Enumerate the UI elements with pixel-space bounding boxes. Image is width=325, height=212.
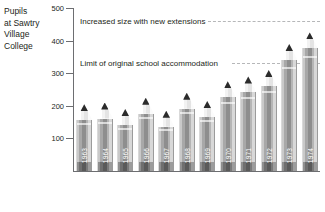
pencil-lead-point — [244, 76, 252, 83]
x-tick-label: 1970 — [224, 148, 231, 163]
pencil-highlight-band — [282, 67, 296, 69]
pencil-tip-icon — [302, 32, 318, 48]
y-axis-title-line-3: Village — [4, 29, 50, 41]
pencil-highlight-band — [221, 102, 235, 104]
pencil-barrel: 1965 — [117, 125, 133, 171]
pencil-highlight-band — [180, 112, 194, 114]
pencil-lead-point — [101, 103, 109, 110]
pencil-tip-icon — [281, 44, 297, 60]
pencil-highlight-band — [303, 56, 317, 58]
pencil-highlight-band — [200, 120, 214, 122]
pencil-lead-point — [121, 109, 129, 116]
pencil-tip-icon — [76, 104, 92, 120]
pencil-base — [180, 162, 194, 171]
pencil-barrel: 1968 — [179, 109, 195, 171]
pencil-barrel: 1966 — [138, 114, 154, 171]
x-tick-label: 1964 — [101, 148, 108, 163]
bar-pencil: 1965 — [117, 109, 133, 171]
bar-pencil: 1969 — [199, 101, 215, 171]
bar-pencil: 1967 — [158, 111, 174, 171]
pencil-tip-icon — [97, 103, 113, 119]
pencil-tip-icon — [199, 101, 215, 117]
pencil-tip-icon — [240, 76, 256, 92]
x-tick-label: 1974 — [306, 148, 313, 163]
pencil-lead-point — [162, 111, 170, 118]
pencil-base — [118, 162, 132, 171]
pencil-lead-point — [183, 93, 191, 100]
y-axis-title-line-2: at Sawtry — [4, 18, 50, 30]
y-tick-label: 300 — [48, 69, 64, 78]
y-tick-mark — [66, 8, 73, 9]
pencil-lead-point — [80, 104, 88, 111]
pencil-base — [98, 162, 112, 171]
pencil-lead-point — [285, 44, 293, 51]
pencil-barrel: 1964 — [97, 119, 113, 171]
x-tick-label: 1966 — [142, 148, 149, 163]
pencil-highlight-band — [77, 123, 91, 125]
x-tick-label: 1965 — [122, 148, 129, 163]
y-tick-mark — [66, 73, 73, 74]
x-tick-label: 1969 — [204, 148, 211, 163]
pencil-lead-point — [306, 32, 314, 39]
pencil-base — [221, 162, 235, 171]
bar-pencil: 1974 — [302, 32, 318, 171]
pencil-highlight-band — [262, 91, 276, 93]
pencil-lead-point — [265, 70, 273, 77]
pencil-base — [241, 162, 255, 171]
pencil-barrel: 1974 — [302, 48, 318, 171]
plot-area: 1963196419651966196719681969197019711972… — [74, 8, 320, 171]
pencil-barrel: 1970 — [220, 97, 236, 171]
x-tick-label: 1971 — [245, 148, 252, 163]
pencil-highlight-band — [159, 129, 173, 131]
y-axis-title: Pupils at Sawtry Village College — [4, 6, 50, 52]
x-tick-label: 1963 — [81, 148, 88, 163]
y-tick-label: 100 — [48, 134, 64, 143]
pupils-bar-chart: Pupils at Sawtry Village College 1002003… — [0, 0, 325, 212]
pencil-lead-point — [203, 101, 211, 108]
pencil-tip-icon — [138, 98, 154, 114]
bar-pencil: 1971 — [240, 76, 256, 171]
y-tick-label: 200 — [48, 101, 64, 110]
pencil-highlight-band — [118, 128, 132, 130]
pencil-base — [159, 162, 173, 171]
pencil-highlight-band — [98, 122, 112, 124]
bar-pencil: 1966 — [138, 98, 154, 171]
y-tick-mark — [66, 138, 73, 139]
y-axis-title-line-4: College — [4, 41, 50, 53]
pencil-highlight-band — [241, 97, 255, 99]
y-tick-label: 400 — [48, 36, 64, 45]
bar-pencil: 1973 — [281, 44, 297, 171]
pencil-base — [262, 162, 276, 171]
pencil-barrel: 1972 — [261, 86, 277, 171]
pencil-lead-point — [224, 81, 232, 88]
pencil-tip-icon — [220, 81, 236, 97]
pencil-base — [200, 162, 214, 171]
bar-pencil: 1963 — [76, 104, 92, 171]
y-tick-mark — [66, 106, 73, 107]
pencil-barrel: 1963 — [76, 120, 92, 171]
pencil-barrel: 1969 — [199, 117, 215, 171]
pencil-base — [139, 162, 153, 171]
pencil-tip-icon — [261, 70, 277, 86]
pencil-tip-icon — [117, 109, 133, 125]
pencil-tip-icon — [179, 93, 195, 109]
pencil-highlight-band — [139, 117, 153, 119]
bar-pencil: 1972 — [261, 70, 277, 171]
y-axis-title-line-1: Pupils — [4, 6, 50, 18]
x-tick-label: 1972 — [265, 148, 272, 163]
x-tick-label: 1973 — [286, 148, 293, 163]
bar-pencil: 1968 — [179, 93, 195, 171]
bar-pencil: 1970 — [220, 81, 236, 171]
pencil-barrel: 1973 — [281, 60, 297, 171]
x-axis-line — [73, 171, 320, 172]
x-tick-label: 1967 — [163, 148, 170, 163]
y-tick-label: 500 — [48, 4, 64, 13]
pencil-base — [77, 162, 91, 171]
x-tick-label: 1968 — [183, 148, 190, 163]
bar-pencil: 1964 — [97, 103, 113, 171]
pencil-tip-icon — [158, 111, 174, 127]
pencil-lead-point — [142, 98, 150, 105]
pencil-base — [303, 162, 317, 171]
y-tick-mark — [66, 41, 73, 42]
pencil-barrel: 1971 — [240, 92, 256, 171]
